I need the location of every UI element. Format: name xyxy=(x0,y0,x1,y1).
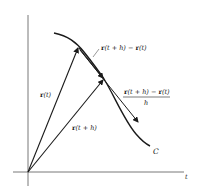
label-curve-c: C xyxy=(153,147,159,156)
label-r-t: r(t) xyxy=(40,91,52,99)
label-t-axis: t xyxy=(185,173,188,181)
label-r-t-plus-h: r(t + h) xyxy=(72,124,97,132)
derivative-vector-diagram: r(t) r(t + h) r(t + h) − r(t) r(t + h) −… xyxy=(0,0,197,194)
difference-quotient-vector xyxy=(80,50,138,122)
difference-label-leader xyxy=(93,49,99,57)
vector-r-t xyxy=(28,48,78,172)
label-quotient-numerator: r(t + h) − r(t) xyxy=(124,88,170,96)
label-secant-difference: r(t + h) − r(t) xyxy=(101,44,147,52)
label-quotient-denominator: h xyxy=(144,99,148,107)
